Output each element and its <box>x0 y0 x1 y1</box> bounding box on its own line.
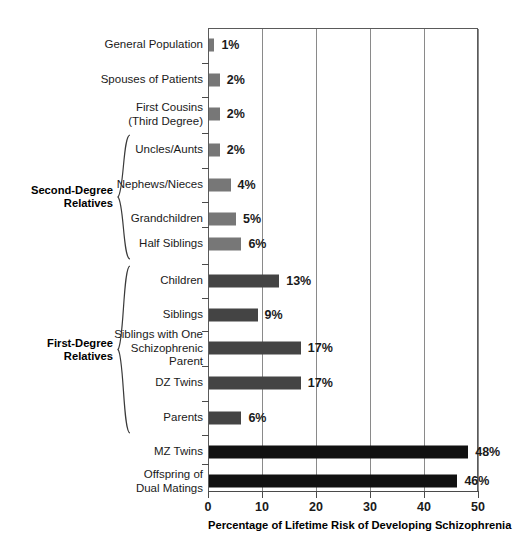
gridline-50 <box>478 29 479 491</box>
x-tick-label-50: 50 <box>471 500 485 514</box>
bar-value-label: 13% <box>286 274 311 288</box>
bar[interactable] <box>209 475 457 488</box>
group-label: First-Degree Relatives <box>47 337 113 363</box>
bar-value-label: 2% <box>227 73 245 87</box>
y-tick <box>202 366 209 367</box>
x-tick-10 <box>262 491 263 498</box>
x-tick-label-10: 10 <box>255 500 269 514</box>
group-brace <box>117 265 131 434</box>
gridline-20 <box>316 29 317 491</box>
x-tick-0 <box>208 491 209 498</box>
y-tick <box>202 435 209 436</box>
x-axis-title: Percentage of Lifetime Risk of Developin… <box>208 519 478 531</box>
bar[interactable] <box>209 309 258 322</box>
bar[interactable] <box>209 342 301 355</box>
bar-value-label: 2% <box>227 143 245 157</box>
y-tick <box>202 168 209 169</box>
bar-value-label: 17% <box>308 341 333 355</box>
y-tick <box>202 63 209 64</box>
bar-value-label: 5% <box>243 212 261 226</box>
category-label: Spouses of Patients <box>101 73 203 87</box>
category-label: DZ Twins <box>155 376 203 390</box>
bar[interactable] <box>209 108 220 121</box>
x-tick-label-40: 40 <box>417 500 431 514</box>
bar-value-label: 4% <box>238 178 256 192</box>
bar-value-label: 6% <box>248 237 266 251</box>
x-tick-50 <box>478 491 479 498</box>
gridline-30 <box>370 29 371 491</box>
category-label: MZ Twins <box>154 445 203 459</box>
bar-value-label: 9% <box>265 308 283 322</box>
x-axis-line <box>208 491 478 492</box>
gridline-40 <box>424 29 425 491</box>
bar[interactable] <box>209 39 214 52</box>
bar[interactable] <box>209 179 231 192</box>
category-label: Children <box>160 274 203 288</box>
bar-value-label: 1% <box>221 38 239 52</box>
bar[interactable] <box>209 74 220 87</box>
y-tick <box>202 401 209 402</box>
group-label: Second-Degree Relatives <box>31 184 113 210</box>
bar[interactable] <box>209 412 241 425</box>
y-tick <box>202 298 209 299</box>
bar-value-label: 46% <box>464 474 489 488</box>
bar-value-label: 2% <box>227 107 245 121</box>
bar[interactable] <box>209 213 236 226</box>
y-tick <box>202 133 209 134</box>
category-label: General Population <box>105 38 203 52</box>
category-label: Offspring of Dual Matings <box>136 468 203 495</box>
bar-value-label: 17% <box>308 376 333 390</box>
x-tick-40 <box>424 491 425 498</box>
group-brace <box>117 134 131 260</box>
category-label: First Cousins (Third Degree) <box>128 101 203 128</box>
y-tick <box>202 464 209 465</box>
x-tick-30 <box>370 491 371 498</box>
y-tick <box>202 264 209 265</box>
y-tick <box>202 97 209 98</box>
bar-value-label: 6% <box>248 411 266 425</box>
x-tick-label-20: 20 <box>309 500 323 514</box>
x-tick-label-0: 0 <box>205 500 212 514</box>
y-tick <box>202 202 209 203</box>
bar[interactable] <box>209 238 241 251</box>
y-tick <box>202 331 209 332</box>
category-label: Grandchildren <box>131 212 203 226</box>
category-label: Parents <box>163 411 203 425</box>
y-tick <box>202 227 209 228</box>
x-tick-label-30: 30 <box>363 500 377 514</box>
bar[interactable] <box>209 446 468 459</box>
bar-value-label: 48% <box>475 445 500 459</box>
schizophrenia-risk-bar-chart: General Population1%Spouses of Patients2… <box>0 0 515 557</box>
category-label: Uncles/Aunts <box>135 143 203 157</box>
x-tick-20 <box>316 491 317 498</box>
category-label: Half Siblings <box>139 237 203 251</box>
bar[interactable] <box>209 377 301 390</box>
category-label: Siblings <box>163 308 203 322</box>
bar[interactable] <box>209 275 279 288</box>
bar[interactable] <box>209 144 220 157</box>
